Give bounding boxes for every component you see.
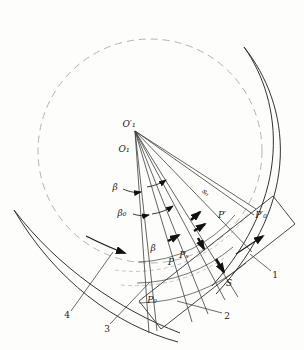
fan-line-p0-prime-a bbox=[135, 131, 256, 209]
beta-zero-arc bbox=[152, 206, 173, 214]
label-center: O₁ bbox=[119, 144, 130, 154]
callout-number-4: 4 bbox=[64, 310, 70, 320]
chevron-radial-2 bbox=[216, 259, 224, 272]
beta-upper-leader bbox=[123, 189, 141, 192]
angle-arcs bbox=[123, 180, 173, 216]
fan-line-p-prime bbox=[135, 131, 252, 252]
label-p-zero: P₀ bbox=[146, 295, 157, 305]
label-p-prime: P′ bbox=[217, 210, 226, 220]
figure-canvas: O′₁ O₁ β β₀ β s₀ P′ P′₀ P Pₓ P₀ S 1 2 3 … bbox=[0, 0, 304, 350]
label-s: S bbox=[226, 278, 232, 288]
label-s-zero: s₀ bbox=[200, 187, 211, 198]
diagram-svg: O′₁ O₁ β β₀ β s₀ P′ P′₀ P Pₓ P₀ S 1 2 3 … bbox=[0, 0, 304, 350]
callout-number-2: 2 bbox=[224, 311, 230, 321]
label-beta-lower: β bbox=[149, 243, 155, 253]
base-circle-dashed bbox=[38, 39, 262, 263]
chevron-arc-2 bbox=[194, 224, 205, 231]
label-beta-zero: β₀ bbox=[117, 208, 127, 218]
callout-number-1: 1 bbox=[272, 270, 278, 280]
label-center-prime: O′₁ bbox=[122, 119, 135, 129]
label-p: P bbox=[167, 257, 175, 267]
callout-number-3: 3 bbox=[104, 324, 110, 334]
callout-leader-1 bbox=[250, 254, 271, 271]
chevron-arc-3 bbox=[191, 212, 200, 220]
rotation-arrow bbox=[86, 236, 125, 253]
fan-line-p0-prime-b bbox=[135, 131, 254, 215]
label-p-zero-prime: P′₀ bbox=[254, 210, 267, 220]
label-beta-upper: β bbox=[111, 182, 117, 192]
fan-line-p bbox=[135, 131, 192, 322]
chevron-radial-1 bbox=[198, 238, 204, 249]
label-p-x: Pₓ bbox=[178, 250, 189, 260]
callout-leader-4 bbox=[71, 252, 113, 311]
